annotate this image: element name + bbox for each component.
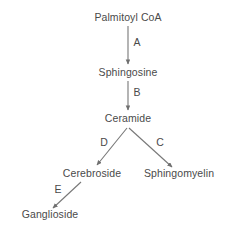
node-sphingosine: Sphingosine [99,66,158,78]
step-label-d: D [100,136,108,148]
node-ceramide: Ceramide [105,112,151,124]
step-label-e: E [54,183,61,195]
step-label-c: C [156,136,164,148]
step-label-a: A [133,36,140,48]
node-sphingomyelin: Sphingomyelin [144,167,214,179]
node-cerebroside: Cerebroside [63,167,121,179]
node-palmitoyl-coa: Palmitoyl CoA [94,11,161,23]
pathway-diagram: Palmitoyl CoA Sphingosine Ceramide Cereb… [0,0,227,237]
step-label-b: B [133,86,140,98]
arrow-ceramide-to-sphingomyelin [129,128,172,167]
node-ganglioside: Ganglioside [22,208,79,220]
